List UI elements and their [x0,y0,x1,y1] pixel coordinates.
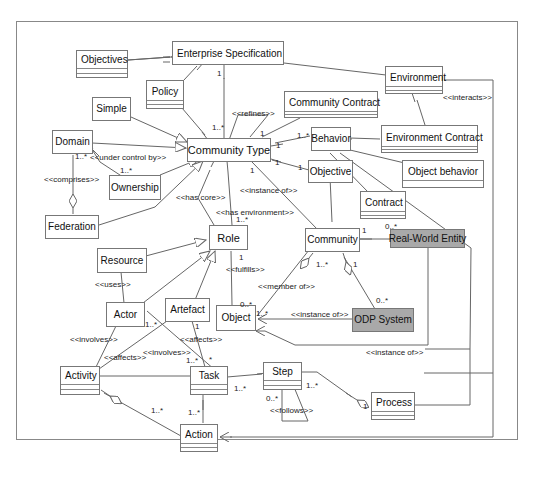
class-name: Behavior [312,128,350,150]
stereotype-under-control-by: <<under control by>> [90,153,166,162]
class-name: Process [372,393,414,411]
multiplicity: 1 [217,69,221,78]
class-name: Role [210,226,247,249]
class-simple[interactable]: Simple [92,97,131,121]
stereotype-fulfills: <<fulfills>> [226,265,265,274]
class-compartment [372,415,414,419]
class-compartment [264,385,301,390]
class-activity[interactable]: Activity [60,366,100,395]
multiplicity: 1..* [297,131,309,140]
class-role[interactable]: Role [209,225,248,250]
multiplicity: 1 [298,163,302,172]
class-community-contract[interactable]: Community Contract [284,91,378,118]
multiplicity: 1 [250,166,254,175]
class-name: Policy [147,81,183,100]
stereotype-follows: <<follows>> [270,406,313,415]
class-step[interactable]: Step [263,362,302,390]
class-odp-system[interactable]: ODP System [352,308,414,332]
class-compartment [61,389,99,394]
class-compartment [285,114,377,117]
multiplicity: 1 [260,129,264,138]
multiplicity: 1..* [256,309,268,318]
stereotype-instance-of-rwe: <<instance of>> [366,348,423,357]
class-object-behavior[interactable]: Object behavior [402,160,484,188]
stereotype-interacts: <<interacts>> [443,93,492,102]
class-name: Object [217,306,255,330]
class-name: Objective [309,161,352,182]
multiplicity: 1..* [188,408,200,417]
class-name: Community [306,229,359,251]
class-objectives[interactable]: Objectives [76,50,128,78]
multiplicity: 1 [353,260,357,269]
stereotype-has-core: <<has core>> [176,193,225,202]
class-action[interactable]: Action [180,424,218,452]
class-community[interactable]: Community [305,228,360,252]
stereotype-has-environment: <<has environment>> [216,208,294,217]
class-community-type[interactable]: Community Type [187,138,271,162]
class-name: Resource [98,249,146,272]
class-resource[interactable]: Resource [97,248,147,273]
multiplicity: 1 [275,158,279,167]
class-process[interactable]: Process [371,392,415,420]
class-compartment [361,215,405,219]
class-name: Federation [46,216,98,238]
class-name: Environment Contract [382,126,477,146]
multiplicity: 0..* [376,296,388,305]
class-name: Object behavior [403,161,483,180]
class-compartment [403,180,483,186]
class-domain[interactable]: Domain [52,130,93,154]
class-name: Objectives [77,51,127,68]
class-policy[interactable]: Policy [146,80,184,109]
multiplicity: 1..* [75,152,87,161]
class-name: Step [264,363,301,380]
class-behavior[interactable]: Behavior [311,127,351,151]
multiplicity: 1..* [306,381,318,390]
multiplicity: 1..* [151,406,163,415]
class-compartment [147,104,183,108]
multiplicity: 1 [195,322,199,331]
multiplicity: * [209,355,212,364]
multiplicity: 0..* [385,222,397,231]
class-ownership[interactable]: Ownership [109,175,161,200]
class-actor[interactable]: Actor [106,302,145,327]
class-name: Action [181,425,217,443]
multiplicity: 1 [276,141,280,150]
multiplicity: 1..* [145,320,157,329]
class-compartment [382,149,477,152]
class-compartment [77,73,127,78]
multiplicity: 1..* [236,215,248,224]
stereotype-comprises: <<comprises>> [44,175,99,184]
class-name: Actor [107,303,144,326]
class-name: Artefact [166,299,209,321]
class-environment-contract[interactable]: Environment Contract [381,125,478,153]
class-name: Ownership [110,176,160,199]
class-enterprise-specification[interactable]: Enterprise Specification [172,41,284,65]
stereotype-involves-task: <<involves>> [143,348,191,357]
multiplicity: 1..* [234,384,246,393]
class-artefact[interactable]: Artefact [165,298,210,322]
multiplicity: 1 [362,226,366,235]
multiplicity: 0..* [266,394,278,403]
class-name: Activity [61,367,99,384]
stereotype-uses: <<uses>> [95,280,131,289]
class-environment[interactable]: Environment [385,66,443,94]
class-name: Domain [53,131,92,153]
multiplicity: 1..* [120,166,132,175]
class-compartment [191,389,227,394]
class-name: Community Type [188,139,270,161]
class-task[interactable]: Task [190,366,228,395]
stereotype-affects-task: <<affects>> [180,335,222,344]
class-name: Community Contract [285,92,377,111]
stereotype-refines: <<refines>> [232,109,275,118]
class-contract[interactable]: Contract [360,191,406,219]
class-name: Environment [386,67,442,86]
stereotype-affects-activity: <<affects>> [104,353,146,362]
class-federation[interactable]: Federation [45,215,99,239]
multiplicity: 1 [363,402,367,411]
class-name: Enterprise Specification [173,42,283,62]
multiplicity: 1 [239,253,243,262]
class-real-world-entity[interactable]: Real-World Entity [390,229,465,248]
class-name: ODP System [353,309,413,331]
class-objective[interactable]: Objective [308,160,353,183]
multiplicity: 0..* [240,300,252,309]
